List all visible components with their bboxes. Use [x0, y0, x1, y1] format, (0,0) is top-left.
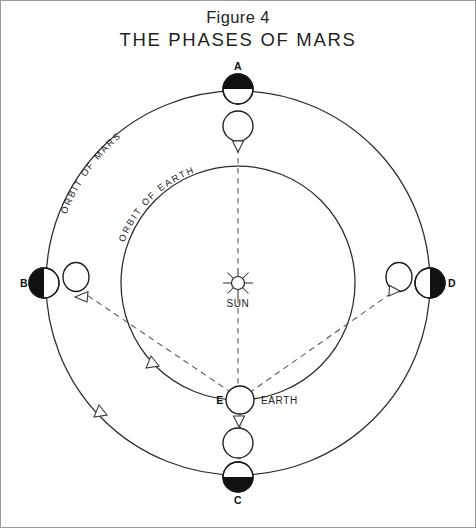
figure-title: THE PHASES OF MARS	[119, 29, 356, 50]
mars-position-a	[223, 74, 253, 104]
orbit-mars-label-text: ORBIT OF MARS	[59, 130, 123, 215]
orbit-mars-label: ORBIT OF MARS	[59, 130, 123, 215]
sight-arrowhead-a	[233, 141, 244, 152]
mars-position-b	[29, 268, 59, 298]
orbit-earth-label-text: ORBIT OF EARTH	[117, 165, 197, 243]
sight-arrowhead-c	[234, 416, 245, 427]
mars-position-d	[415, 268, 445, 298]
sun-icon	[223, 268, 253, 298]
figure-number: Figure 4	[206, 8, 270, 26]
phase-view-c	[223, 428, 253, 458]
figure-container: Figure 4 THE PHASES OF MARS ORBIT OF MAR…	[0, 0, 476, 528]
phase-view-a	[223, 111, 253, 141]
sight-line-to-b	[84, 293, 232, 393]
sight-arrowhead-b	[75, 292, 88, 303]
position-b-label: B	[20, 277, 28, 289]
phase-view-b	[63, 263, 89, 292]
orbit-earth-label: ORBIT OF EARTH	[117, 165, 197, 243]
earth-label: EARTH	[261, 395, 298, 406]
position-a-label: A	[234, 60, 242, 72]
motion-arrowhead-mars-orbit	[94, 405, 107, 417]
earth-marker-label: E	[216, 394, 223, 406]
sun-label: SUN	[227, 298, 250, 309]
earth-body	[226, 386, 254, 414]
mars-position-c	[223, 462, 253, 492]
position-c-label: C	[234, 494, 242, 506]
position-d-label: D	[448, 277, 456, 289]
sight-line-to-d	[249, 292, 393, 393]
phases-of-mars-diagram: Figure 4 THE PHASES OF MARS ORBIT OF MAR…	[0, 0, 476, 528]
